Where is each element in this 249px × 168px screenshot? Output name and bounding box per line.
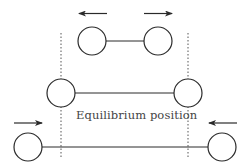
atom-right — [208, 133, 236, 161]
state-equilibrium — [47, 79, 202, 107]
atom-right — [144, 27, 172, 55]
atom-left — [78, 27, 106, 55]
equilibrium-position-label: Equilibrium position — [76, 108, 197, 122]
atom-left — [47, 79, 75, 107]
atom-left — [14, 133, 42, 161]
atom-right — [174, 79, 202, 107]
state-compressed-inward — [14, 123, 237, 161]
bond-vibration-diagram — [0, 0, 249, 168]
state-stretched-apart — [78, 14, 172, 56]
